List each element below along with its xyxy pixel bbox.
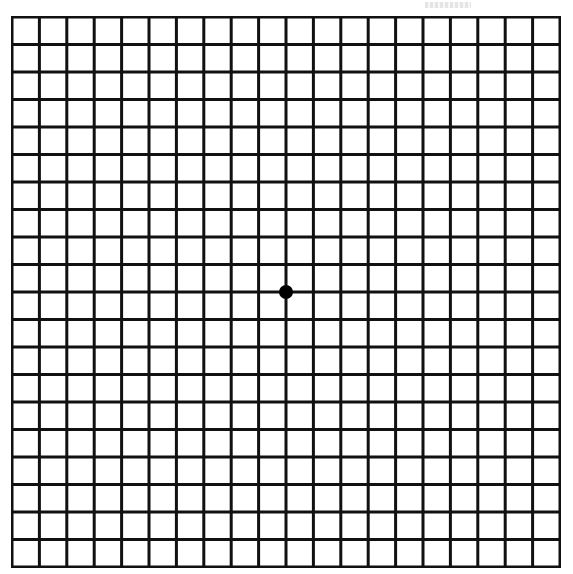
faint-header-mark [425,2,471,8]
amsler-grid [11,16,561,568]
grid-lines [11,16,561,568]
fixation-dot [279,285,293,299]
